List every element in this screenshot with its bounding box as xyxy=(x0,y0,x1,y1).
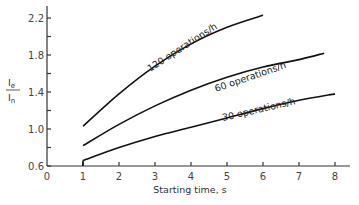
x-axis-title: Starting time, s xyxy=(153,184,226,195)
y-tick-label: 1.4 xyxy=(28,87,44,98)
x-tick-label: 7 xyxy=(296,171,302,182)
x-tick-label: 5 xyxy=(224,171,230,182)
curve-30-ops xyxy=(83,94,335,161)
x-tick-label: 4 xyxy=(188,171,194,182)
y-tick-label: 2.2 xyxy=(28,13,44,24)
x-tick-label: 3 xyxy=(152,171,158,182)
x-tick-label: 2 xyxy=(116,171,122,182)
y-tick-label: 1.8 xyxy=(28,50,44,61)
x-tick-label: 0 xyxy=(44,171,50,182)
x-tick-label: 8 xyxy=(332,171,338,182)
svg-text:In: In xyxy=(8,92,15,105)
curve-60-ops-label: 60 operations/h xyxy=(213,59,287,94)
chart: 0123456780.61.01.41.82.2 120 operations/… xyxy=(0,0,359,205)
x-tick-label: 6 xyxy=(260,171,266,182)
curve-30-ops-label: 30 operations/h xyxy=(221,95,296,123)
x-tick-label: 1 xyxy=(80,171,86,182)
y-tick-label: 0.6 xyxy=(28,161,44,172)
curve-120-ops-label: 120 operations/h xyxy=(145,20,219,73)
svg-text:Ie: Ie xyxy=(8,77,15,90)
y-axis-title: Ie In xyxy=(6,77,20,105)
y-tick-label: 1.0 xyxy=(28,124,44,135)
labels: 120 operations/h60 operations/h30 operat… xyxy=(145,20,296,123)
curves xyxy=(83,15,335,166)
